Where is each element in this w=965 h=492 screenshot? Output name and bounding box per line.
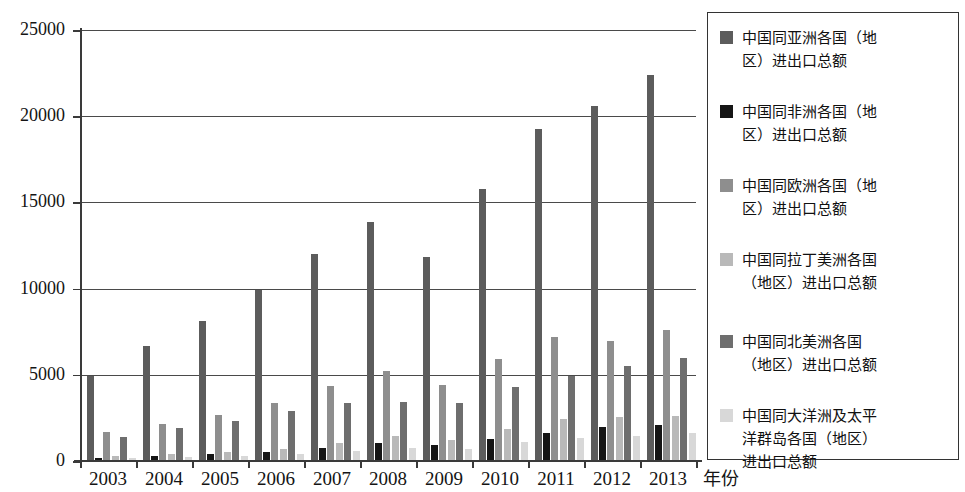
bar-group	[255, 30, 304, 461]
legend-swatch-icon	[720, 31, 733, 44]
bar-group	[87, 30, 136, 461]
legend-label: 中国同北美洲各国 （地区）进出口总额	[742, 331, 877, 377]
y-tick-label: 10000	[3, 279, 65, 297]
x-tick-mark	[192, 461, 194, 468]
bar	[577, 438, 584, 461]
bar	[512, 387, 519, 461]
x-tick-mark	[80, 461, 82, 468]
bar-group	[367, 30, 416, 461]
legend-swatch-icon	[720, 409, 733, 422]
legend-label: 中国同大洋洲及太平 洋群岛各国（地区） 进出口总额	[742, 405, 877, 474]
legend-item[interactable]: 中国同拉丁美洲各国 （地区）进出口总额	[720, 249, 877, 295]
y-axis-line	[80, 28, 82, 463]
bar	[439, 385, 446, 461]
chart-legend: 中国同亚洲各国（地 区）进出口总额中国同非洲各国（地 区）进出口总额中国同欧洲各…	[707, 12, 959, 460]
bar	[599, 427, 606, 461]
y-tick-label: 5000	[3, 365, 65, 383]
bar	[199, 321, 206, 462]
bar	[344, 403, 351, 461]
x-tick-mark	[304, 461, 306, 468]
bar	[689, 433, 696, 461]
bar	[521, 442, 528, 461]
bar	[375, 443, 382, 461]
bar	[271, 403, 278, 461]
bar	[535, 129, 542, 461]
bar	[400, 402, 407, 461]
legend-item[interactable]: 中国同非洲各国（地 区）进出口总额	[720, 101, 877, 147]
y-tick-label: 15000	[3, 192, 65, 210]
bar	[215, 415, 222, 461]
bar	[176, 428, 183, 461]
legend-swatch-icon	[720, 179, 733, 192]
bar	[663, 330, 670, 461]
bar	[367, 222, 374, 461]
legend-item[interactable]: 中国同欧洲各国（地 区）进出口总额	[720, 175, 877, 221]
bar	[633, 436, 640, 461]
bar	[560, 419, 567, 461]
bar	[456, 403, 463, 461]
bar	[383, 371, 390, 462]
bar	[103, 432, 110, 461]
bar	[495, 359, 502, 461]
bar	[647, 75, 654, 461]
bar	[568, 376, 575, 461]
legend-swatch-icon	[720, 105, 733, 118]
bar	[336, 443, 343, 461]
y-tick-mark	[73, 375, 80, 377]
x-tick-mark	[528, 461, 530, 468]
x-tick-mark	[696, 461, 698, 468]
bar-group	[479, 30, 528, 461]
y-tick-mark	[73, 202, 80, 204]
bar	[624, 366, 631, 461]
legend-item[interactable]: 中国同大洋洲及太平 洋群岛各国（地区） 进出口总额	[720, 405, 877, 474]
x-axis-line	[74, 460, 702, 462]
bar-group	[311, 30, 360, 461]
x-tick-mark	[360, 461, 362, 468]
bar	[680, 358, 687, 461]
y-tick-mark	[73, 461, 80, 463]
x-tick-mark	[416, 461, 418, 468]
x-tick-mark	[248, 461, 250, 468]
bar	[479, 189, 486, 461]
plot-area	[80, 30, 696, 461]
y-tick-mark	[73, 116, 80, 118]
legend-label: 中国同非洲各国（地 区）进出口总额	[742, 101, 877, 147]
legend-swatch-icon	[720, 335, 733, 348]
bar	[431, 445, 438, 461]
bar-group	[199, 30, 248, 461]
legend-item[interactable]: 中国同北美洲各国 （地区）进出口总额	[720, 331, 877, 377]
bar	[255, 290, 262, 461]
bar-group	[647, 30, 696, 461]
x-tick-mark	[472, 461, 474, 468]
bar	[672, 416, 679, 461]
legend-label: 中国同拉丁美洲各国 （地区）进出口总额	[742, 249, 877, 295]
bar	[143, 346, 150, 462]
y-tick-mark	[73, 30, 80, 32]
x-tick-mark	[584, 461, 586, 468]
x-tick-mark	[136, 461, 138, 468]
legend-item[interactable]: 中国同亚洲各国（地 区）进出口总额	[720, 27, 877, 73]
bar-group	[535, 30, 584, 461]
chart-root: 0500010000150002000025000 20032004200520…	[0, 0, 965, 492]
x-tick-label: 2013	[635, 468, 701, 489]
bar	[311, 254, 318, 461]
bar	[392, 436, 399, 461]
legend-swatch-icon	[720, 253, 733, 266]
bar	[543, 433, 550, 461]
bar-group	[423, 30, 472, 461]
bar-group	[591, 30, 640, 461]
legend-label: 中国同欧洲各国（地 区）进出口总额	[742, 175, 877, 221]
bar	[607, 341, 614, 461]
bar	[448, 440, 455, 461]
bar	[120, 437, 127, 461]
bar	[551, 337, 558, 461]
bar	[423, 257, 430, 461]
bar	[87, 376, 94, 461]
bar	[591, 106, 598, 461]
legend-label: 中国同亚洲各国（地 区）进出口总额	[742, 27, 877, 73]
y-tick-mark	[73, 289, 80, 291]
y-tick-label: 25000	[3, 20, 65, 38]
bar-group	[143, 30, 192, 461]
bar	[288, 411, 295, 461]
bar	[232, 421, 239, 461]
